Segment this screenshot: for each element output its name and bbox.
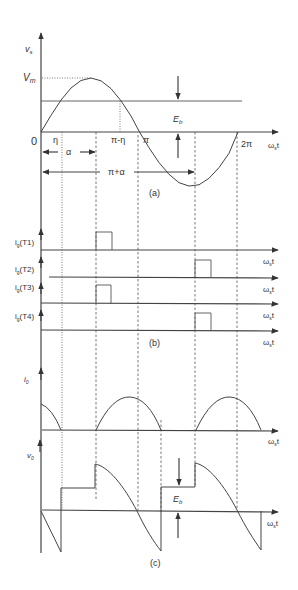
- t2-pulse: [195, 260, 211, 278]
- t3-x-label: ωst: [263, 311, 275, 321]
- t4-pulse: [195, 313, 211, 331]
- v0-x-label: ωst: [267, 519, 279, 529]
- caption-c: (c): [150, 558, 161, 568]
- tick-pi-minus-eta: π-η: [111, 135, 125, 145]
- t4-x-label: ωst: [263, 338, 275, 348]
- rectifier-waveform-diagram: vs Vm 0 η π-η π 2π ωst Eb α π+α (a): [0, 0, 298, 590]
- caption-a: (a): [149, 188, 160, 198]
- t4-time-axis: [41, 330, 278, 331]
- t1-pulse: [96, 232, 112, 250]
- tick-eta: η: [53, 135, 58, 145]
- t2-x-label: ωst: [263, 285, 275, 295]
- t3-time-axis: [41, 303, 278, 304]
- v0-time-axis: [42, 510, 278, 512]
- eb-label-a: Eb: [173, 114, 183, 125]
- alpha-label: α: [66, 147, 71, 157]
- panel-c: i0 ωst v0 Eb ωst (c): [24, 368, 280, 568]
- t1-label: ig(T1): [15, 238, 35, 248]
- i0-waveform: [41, 397, 261, 430]
- gate-t2: ig(T2) ωst: [15, 257, 278, 295]
- caption-b: (b): [149, 338, 160, 348]
- t1-x-label: ωst: [263, 257, 275, 267]
- i0-label: i0: [24, 375, 29, 385]
- panel-b: ig(T1) ωst ig(T2) ωst ig(T3) ωst ig(T4): [15, 229, 278, 348]
- t2-label: ig(T2): [15, 265, 35, 275]
- eb-label-c: Eb: [173, 494, 183, 505]
- t2-time-axis: [49, 277, 278, 278]
- tick-pi: π: [143, 135, 150, 145]
- t3-pulse: [96, 285, 111, 304]
- t4-label: ig(T4): [15, 312, 35, 322]
- tick-two-pi: 2π: [241, 139, 252, 149]
- pi-alpha-label: π+α: [108, 167, 125, 177]
- vm-label: Vm: [23, 72, 36, 84]
- vs-label: vs: [25, 44, 33, 55]
- x-label-a: ωst: [268, 141, 280, 151]
- gate-t4: ig(T4) ωst: [15, 310, 278, 348]
- i0-x-label: ωst: [268, 437, 280, 447]
- v0-label: v0: [27, 451, 34, 461]
- v0-waveform: [41, 463, 261, 552]
- gate-t3: ig(T3) ωst: [15, 283, 278, 321]
- i0-time-axis: [42, 430, 278, 431]
- origin-label: 0: [31, 135, 37, 147]
- panel-a: vs Vm 0 η π-η π 2π ωst Eb α π+α (a): [23, 44, 280, 198]
- t3-label: ig(T3): [15, 283, 35, 293]
- gate-t1: ig(T1) ωst: [15, 229, 278, 267]
